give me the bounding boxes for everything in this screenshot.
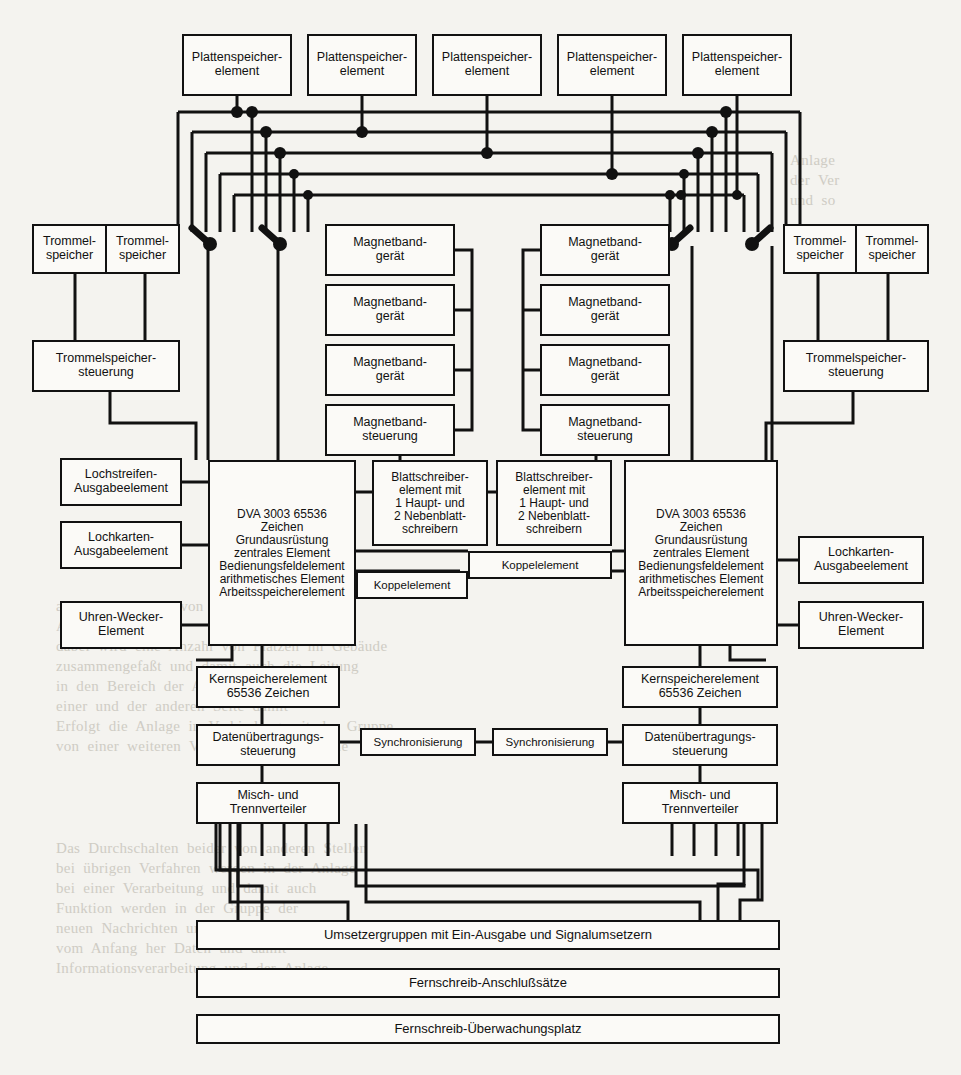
teletype-monitoring-station-bar-label: Fernschreib-Überwachungsplatz — [394, 1022, 581, 1036]
disk-storage-element-5[interactable]: Plattenspeicher- element — [682, 34, 792, 96]
drum-storage-controller-left-label: Trommelspeicher- steuerung — [56, 352, 156, 379]
data-transmission-control-right[interactable]: Datenübertragungs- steuerung — [622, 724, 778, 766]
drum-storage-controller-right-label: Trommelspeicher- steuerung — [806, 352, 906, 379]
central-unit-left-label: DVA 3003 65536 Zeichen Grundausrüstung z… — [219, 508, 344, 599]
mixer-distributor-left[interactable]: Misch- und Trennverteiler — [196, 782, 340, 824]
tape-drive-right-3-label: Magnetband- gerät — [568, 356, 642, 383]
paper-tape-output-element-label: Lochstreifen- Ausgabeelement — [74, 468, 168, 495]
mixer-distributor-right[interactable]: Misch- und Trennverteiler — [622, 782, 778, 824]
disk-storage-element-3-label: Plattenspeicher- element — [442, 51, 532, 78]
clock-alarm-element-right-label: Uhren-Wecker- Element — [819, 611, 904, 638]
disk-storage-element-4-label: Plattenspeicher- element — [567, 51, 657, 78]
central-unit-right[interactable]: DVA 3003 65536 Zeichen Grundausrüstung z… — [624, 460, 778, 646]
coupling-element-lower[interactable]: Koppelelement — [356, 571, 468, 599]
core-memory-left[interactable]: Kernspeicherelement 65536 Zeichen — [196, 666, 340, 708]
tape-drive-right-1[interactable]: Magnetband- gerät — [540, 224, 670, 276]
tape-drive-right-3[interactable]: Magnetband- gerät — [540, 344, 670, 396]
tape-controller-right[interactable]: Magnetband- steuerung — [540, 404, 670, 456]
drum-storage-left-unit-2-label: Trommel- speicher — [107, 235, 178, 262]
central-unit-left[interactable]: DVA 3003 65536 Zeichen Grundausrüstung z… — [208, 460, 356, 646]
disk-storage-element-2-label: Plattenspeicher- element — [317, 51, 407, 78]
diagram-canvas: auch der Betrieb von Datenübertragung Au… — [0, 0, 961, 1075]
disk-storage-element-2[interactable]: Plattenspeicher- element — [307, 34, 417, 96]
page-printer-right-label: Blattschreiber- element mit 1 Haupt- und… — [515, 471, 592, 536]
page-printer-left[interactable]: Blattschreiber- element mit 1 Haupt- und… — [372, 460, 488, 546]
clock-alarm-element-left[interactable]: Uhren-Wecker- Element — [60, 601, 182, 649]
drum-storage-controller-right[interactable]: Trommelspeicher- steuerung — [783, 340, 929, 392]
synchronisation-right-label: Synchronisierung — [506, 736, 595, 749]
page-printer-right[interactable]: Blattschreiber- element mit 1 Haupt- und… — [496, 460, 612, 546]
data-transmission-control-left-label: Datenübertragungs- steuerung — [212, 731, 323, 758]
converter-groups-bar[interactable]: Umsetzergruppen mit Ein-Ausgabe und Sign… — [196, 920, 780, 950]
tape-drive-left-1-label: Magnetband- gerät — [353, 236, 427, 263]
punch-card-output-element-left-label: Lochkarten- Ausgabeelement — [74, 531, 168, 558]
paper-tape-output-element[interactable]: Lochstreifen- Ausgabeelement — [60, 458, 182, 506]
tape-drive-left-2[interactable]: Magnetband- gerät — [325, 284, 455, 336]
drum-storage-right-unit-1[interactable]: Trommel- speicher — [785, 226, 857, 272]
disk-storage-element-5-label: Plattenspeicher- element — [692, 51, 782, 78]
data-transmission-control-right-label: Datenübertragungs- steuerung — [644, 731, 755, 758]
data-transmission-control-left[interactable]: Datenübertragungs- steuerung — [196, 724, 340, 766]
tape-drive-right-2[interactable]: Magnetband- gerät — [540, 284, 670, 336]
drum-storage-left-unit-1[interactable]: Trommel- speicher — [34, 226, 107, 272]
synchronisation-left-label: Synchronisierung — [374, 736, 463, 749]
drum-storage-left-pair[interactable]: Trommel- speicher Trommel- speicher — [32, 224, 180, 274]
drum-storage-right-unit-1-label: Trommel- speicher — [785, 235, 855, 262]
disk-storage-element-1-label: Plattenspeicher- element — [192, 51, 282, 78]
coupling-element-upper[interactable]: Koppelelement — [468, 551, 612, 579]
page-printer-left-label: Blattschreiber- element mit 1 Haupt- und… — [391, 471, 468, 536]
tape-controller-left-label: Magnetband- steuerung — [353, 416, 427, 443]
tape-drive-right-2-label: Magnetband- gerät — [568, 296, 642, 323]
core-memory-left-label: Kernspeicherelement 65536 Zeichen — [209, 673, 327, 700]
tape-controller-left[interactable]: Magnetband- steuerung — [325, 404, 455, 456]
tape-controller-right-label: Magnetband- steuerung — [568, 416, 642, 443]
central-unit-right-label: DVA 3003 65536 Zeichen Grundausrüstung z… — [638, 508, 763, 599]
disk-storage-element-4[interactable]: Plattenspeicher- element — [557, 34, 667, 96]
core-memory-right-label: Kernspeicherelement 65536 Zeichen — [641, 673, 759, 700]
clock-alarm-element-right[interactable]: Uhren-Wecker- Element — [798, 601, 924, 649]
teletype-connection-sets-bar[interactable]: Fernschreib-Anschlußsätze — [196, 968, 780, 998]
mixer-distributor-left-label: Misch- und Trennverteiler — [230, 789, 307, 816]
converter-groups-bar-label: Umsetzergruppen mit Ein-Ausgabe und Sign… — [324, 928, 652, 942]
drum-storage-right-unit-2-label: Trommel- speicher — [857, 235, 927, 262]
punch-card-output-element-left[interactable]: Lochkarten- Ausgabeelement — [60, 521, 182, 569]
core-memory-right[interactable]: Kernspeicherelement 65536 Zeichen — [622, 666, 778, 708]
disk-storage-element-1[interactable]: Plattenspeicher- element — [182, 34, 292, 96]
mixer-distributor-right-label: Misch- und Trennverteiler — [662, 789, 739, 816]
punch-card-output-element-right[interactable]: Lochkarten- Ausgabeelement — [798, 536, 924, 584]
synchronisation-left[interactable]: Synchronisierung — [360, 728, 476, 756]
teletype-monitoring-station-bar[interactable]: Fernschreib-Überwachungsplatz — [196, 1014, 780, 1044]
tape-drive-left-1[interactable]: Magnetband- gerät — [325, 224, 455, 276]
teletype-connection-sets-bar-label: Fernschreib-Anschlußsätze — [409, 976, 567, 990]
punch-card-output-element-right-label: Lochkarten- Ausgabeelement — [814, 546, 908, 573]
coupling-element-upper-label: Koppelelement — [502, 559, 579, 572]
drum-storage-left-unit-1-label: Trommel- speicher — [34, 235, 105, 262]
coupling-element-lower-label: Koppelelement — [374, 579, 451, 592]
drum-storage-right-pair[interactable]: Trommel- speicher Trommel- speicher — [783, 224, 929, 274]
tape-drive-right-1-label: Magnetband- gerät — [568, 236, 642, 263]
drum-storage-left-unit-2[interactable]: Trommel- speicher — [107, 226, 178, 272]
tape-drive-left-3-label: Magnetband- gerät — [353, 356, 427, 383]
tape-drive-left-2-label: Magnetband- gerät — [353, 296, 427, 323]
drum-storage-controller-left[interactable]: Trommelspeicher- steuerung — [32, 340, 180, 392]
tape-drive-left-3[interactable]: Magnetband- gerät — [325, 344, 455, 396]
drum-storage-right-unit-2[interactable]: Trommel- speicher — [857, 226, 927, 272]
clock-alarm-element-left-label: Uhren-Wecker- Element — [79, 611, 164, 638]
disk-storage-element-3[interactable]: Plattenspeicher- element — [432, 34, 542, 96]
synchronisation-right[interactable]: Synchronisierung — [492, 728, 608, 756]
